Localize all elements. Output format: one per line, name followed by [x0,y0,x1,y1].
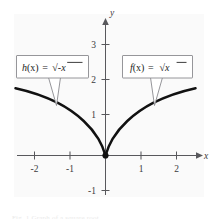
y-tick-labels: 3 2 1 -1 [88,40,96,196]
y-tick-label--1: -1 [88,186,96,196]
figure-caption: Fig. 1 Graph of a square root [12,214,99,219]
x-tick-label-2: 2 [174,164,179,174]
left-fn-radicand: -x [58,62,66,73]
origin-point-marker [102,152,108,158]
y-axis-arrow-icon [102,18,109,25]
x-axis-arrow-icon [196,152,203,159]
right-fn-radicand: x [164,62,170,73]
right-fn-arg: (x) [133,62,145,74]
y-tick-label-2: 2 [91,75,96,85]
figure-container: -2 -1 1 2 3 2 1 -1 x y h(x)=√-x [0,0,214,219]
x-tick-label-1: 1 [139,164,144,174]
x-axis-name: x [203,151,209,161]
y-tick-label-1: 1 [91,110,96,120]
curve-h-sqrt-minus-x [16,88,106,155]
right-fn-equals: = [148,62,154,73]
y-tick-label-3: 3 [91,40,96,50]
right-callout-box[interactable]: f(x)=√x [123,56,193,79]
left-callout-box[interactable]: h(x)=√-x [17,56,89,79]
right-callout-text: f(x)=√x [130,62,170,74]
left-fn-arg: (x) [27,62,39,74]
left-fn-equals: = [42,62,48,73]
graph-canvas: -2 -1 1 2 3 2 1 -1 x y h(x)=√-x [0,0,214,219]
left-callout-text: h(x)=√-x [22,62,66,74]
x-tick-label--2: -2 [31,164,39,174]
x-tick-labels: -2 -1 1 2 [31,164,180,174]
x-tick-label--1: -1 [66,164,74,174]
y-axis-name: y [109,8,115,18]
curve-f-sqrt-x [106,88,196,155]
